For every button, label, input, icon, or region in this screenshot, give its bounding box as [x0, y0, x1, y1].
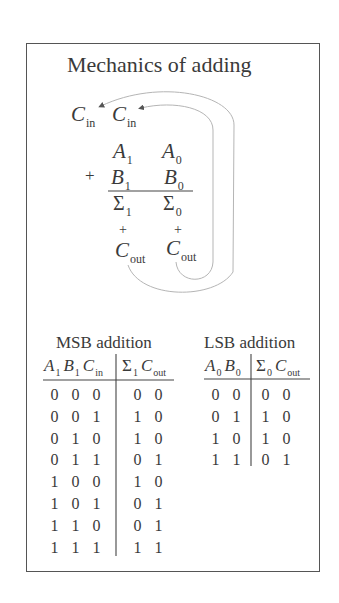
truth-value: 0 [65, 408, 86, 426]
truth-value: 0 [148, 386, 169, 404]
truth-value: 1 [148, 451, 169, 469]
truth-value: 0 [276, 408, 297, 426]
truth-value: 1 [255, 430, 276, 448]
truth-value: 1 [127, 408, 148, 426]
truth-value: 1 [205, 430, 226, 448]
truth-value: 1 [86, 408, 107, 426]
table-row-inputs: 011 [44, 451, 107, 469]
truth-value: 0 [226, 430, 247, 448]
truth-value: 0 [65, 386, 86, 404]
truth-value: 1 [127, 430, 148, 448]
table-row-inputs: 10 [205, 430, 247, 448]
truth-value: 1 [205, 451, 226, 469]
carry-out-label-lsb: Cout [166, 236, 196, 261]
lsb-input-headers: A0B0 [205, 356, 244, 376]
carry-plus-msb: + [119, 222, 127, 238]
truth-value: 1 [148, 495, 169, 513]
truth-value: 0 [148, 430, 169, 448]
truth-value: 1 [86, 495, 107, 513]
msb-table-title: MSB addition [56, 333, 152, 353]
truth-value: 1 [86, 539, 107, 557]
table-row-inputs: 100 [44, 473, 107, 491]
truth-value: 0 [44, 386, 65, 404]
truth-value: 0 [86, 517, 107, 535]
operand-a0: A0 [162, 139, 182, 164]
carry-in-label-msb: Cin [112, 102, 136, 127]
truth-value: 0 [226, 386, 247, 404]
truth-value: 1 [255, 408, 276, 426]
truth-value: 1 [127, 473, 148, 491]
table-row-inputs: 111 [44, 539, 107, 557]
msb-input-headers: A1B1Cin [44, 356, 106, 376]
truth-value: 0 [127, 451, 148, 469]
truth-value: 0 [276, 386, 297, 404]
table-row-inputs: 001 [44, 408, 107, 426]
operand-b1: B1 [111, 165, 131, 190]
truth-value: 1 [44, 473, 65, 491]
truth-value: 0 [86, 430, 107, 448]
truth-value: 1 [65, 430, 86, 448]
truth-value: 0 [276, 430, 297, 448]
truth-value: 0 [44, 430, 65, 448]
operand-b0: B0 [164, 165, 184, 190]
truth-value: 0 [86, 473, 107, 491]
truth-value: 0 [205, 408, 226, 426]
table-row-outputs: 11 [127, 539, 169, 557]
truth-value: 0 [255, 451, 276, 469]
truth-value: 1 [226, 451, 247, 469]
table-row-outputs: 10 [127, 473, 169, 491]
sum-0: Σ0 [163, 191, 182, 216]
truth-value: 1 [65, 539, 86, 557]
msb-output-headers: Σ1Cout [122, 356, 169, 376]
truth-value: 0 [86, 386, 107, 404]
truth-value: 0 [127, 495, 148, 513]
truth-value: 1 [44, 539, 65, 557]
table-row-outputs: 01 [127, 517, 169, 535]
table-row-outputs: 10 [255, 430, 297, 448]
truth-value: 1 [44, 495, 65, 513]
truth-value: 0 [205, 386, 226, 404]
truth-value: 0 [127, 386, 148, 404]
table-row-inputs: 00 [205, 386, 247, 404]
truth-value: 0 [127, 517, 148, 535]
table-row-inputs: 000 [44, 386, 107, 404]
table-row-outputs: 10 [127, 430, 169, 448]
table-row-outputs: 01 [255, 451, 297, 469]
truth-value: 0 [255, 386, 276, 404]
carry-out-label-msb: Cout [115, 238, 145, 263]
table-row-inputs: 110 [44, 517, 107, 535]
truth-value: 1 [226, 408, 247, 426]
table-row-outputs: 01 [127, 495, 169, 513]
table-row-outputs: 00 [127, 386, 169, 404]
truth-value: 0 [44, 451, 65, 469]
truth-value: 0 [65, 473, 86, 491]
truth-value: 1 [86, 451, 107, 469]
truth-value: 0 [44, 408, 65, 426]
table-row-outputs: 10 [255, 408, 297, 426]
truth-value: 1 [148, 539, 169, 557]
lsb-output-headers: Σ0Cout [256, 356, 303, 376]
truth-value: 1 [44, 517, 65, 535]
operand-a1: A1 [113, 139, 133, 164]
table-row-inputs: 11 [205, 451, 247, 469]
table-row-outputs: 01 [127, 451, 169, 469]
table-row-outputs: 10 [127, 408, 169, 426]
truth-value: 0 [65, 495, 86, 513]
table-row-outputs: 00 [255, 386, 297, 404]
truth-value: 1 [276, 451, 297, 469]
table-row-inputs: 010 [44, 430, 107, 448]
table-row-inputs: 101 [44, 495, 107, 513]
sum-1: Σ1 [113, 191, 132, 216]
truth-value: 0 [148, 473, 169, 491]
truth-value: 1 [127, 539, 148, 557]
addition-operator: + [85, 166, 95, 186]
truth-value: 1 [65, 451, 86, 469]
table-row-inputs: 01 [205, 408, 247, 426]
truth-value: 1 [65, 517, 86, 535]
truth-value: 0 [148, 408, 169, 426]
carry-in-label-left: Cin [71, 102, 95, 127]
lsb-table-title: LSB addition [204, 333, 295, 353]
truth-value: 1 [148, 517, 169, 535]
